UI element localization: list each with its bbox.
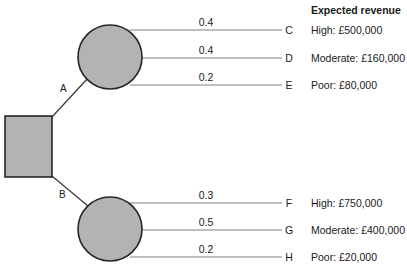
decision-tree-diagram: A B 0.4 0.4 0.2 0.3 0.5 0.2 C D E F G H … [0,0,407,266]
revenue-value-g: Moderate: £400,000 [311,224,405,236]
outcome-letter-c: C [285,24,293,36]
revenue-value-h: Poor: £20,000 [311,251,377,263]
chance-node-b[interactable] [78,197,142,261]
chance-node-a[interactable] [78,25,142,89]
branch-label-b: B [59,189,66,200]
branch-label-a: A [60,83,67,94]
decision-square[interactable] [5,116,52,177]
outcome-letter-g: G [285,224,293,236]
revenue-value-e: Poor: £80,000 [311,79,377,91]
expected-revenue-header: Expected revenue [311,4,401,16]
branch-line-a [52,78,88,117]
revenue-value-f: High: £750,000 [311,197,382,209]
revenue-value-c: High: £500,000 [311,24,382,36]
probability-label-c: 0.4 [199,16,214,28]
outcome-letter-h: H [285,251,293,263]
probability-label-g: 0.5 [199,216,214,228]
probability-label-f: 0.3 [199,189,214,201]
probability-label-h: 0.2 [199,243,214,255]
branch-line-b [52,176,88,206]
probability-label-d: 0.4 [199,44,214,56]
revenue-value-d: Moderate: £160,000 [311,52,405,64]
outcome-letter-f: F [286,197,292,209]
probability-label-e: 0.2 [199,71,214,83]
outcome-letter-e: E [285,79,292,91]
outcome-letter-d: D [285,52,293,64]
